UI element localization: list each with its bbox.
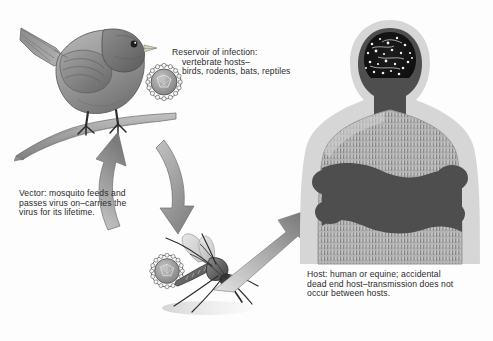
human-host-figure: [292, 18, 488, 266]
vector-caption: Vector: mosquito feeds and passes virus …: [19, 189, 126, 218]
diagram-canvas: Reservoir of infection: vertebrate hosts…: [0, 0, 493, 341]
host-caption: Host: human or equine; accidental dead e…: [307, 270, 453, 299]
reservoir-caption: Reservoir of infection: vertebrate hosts…: [172, 48, 291, 77]
bird-illustration: [18, 14, 158, 139]
